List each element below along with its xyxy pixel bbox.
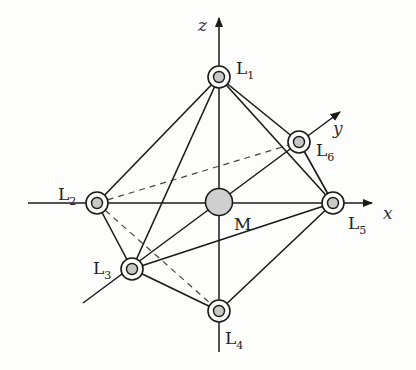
y-axis-label: y xyxy=(332,118,343,138)
edge-L1-L6 xyxy=(219,77,299,142)
ligand-L4 xyxy=(208,300,230,322)
ligand-L3 xyxy=(121,258,143,280)
edge-L3-L5 xyxy=(132,203,333,269)
z-axis-label: z xyxy=(197,15,208,35)
ligand-L5 xyxy=(322,192,344,214)
edge-L2-L4 xyxy=(97,203,219,311)
ligand-L6 xyxy=(288,131,310,153)
label-L1: L1 xyxy=(236,58,254,82)
octahedral-diagram: z y x L1 L2 L3 L4 L5 L6 M xyxy=(0,0,416,370)
label-M: M xyxy=(234,214,251,234)
edge-L1-L3 xyxy=(132,77,219,269)
label-L5: L5 xyxy=(348,213,366,237)
edge-L3-L4 xyxy=(132,269,219,311)
dashed-edges xyxy=(97,142,299,311)
x-axis-label: x xyxy=(383,203,393,223)
label-L6: L6 xyxy=(316,140,334,164)
metal-center xyxy=(206,189,233,216)
edge-L1-L2 xyxy=(97,77,219,203)
label-L4: L4 xyxy=(225,328,243,352)
label-L2: L2 xyxy=(58,184,76,208)
ligand-L2 xyxy=(86,192,108,214)
label-L3: L3 xyxy=(93,258,111,282)
ligand-L1 xyxy=(208,66,230,88)
